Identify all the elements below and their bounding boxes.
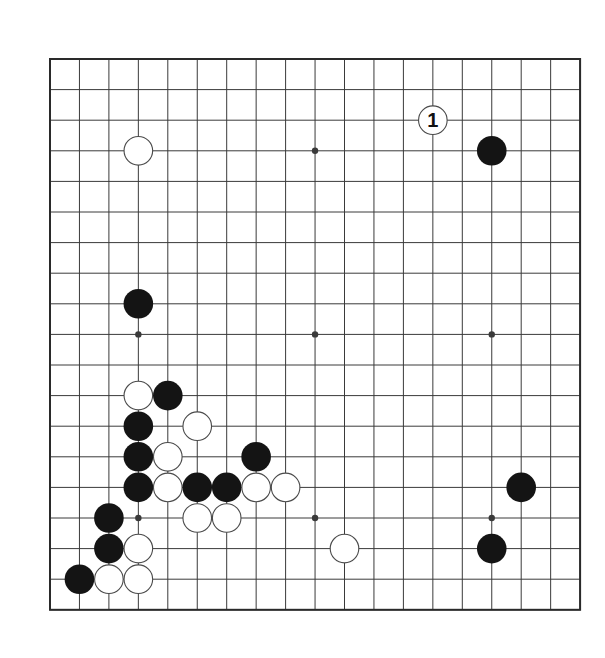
black-stone <box>124 442 154 472</box>
star-point <box>489 515 495 521</box>
white-stone <box>124 534 153 563</box>
black-stone <box>94 503 124 533</box>
white-stone <box>242 473 271 502</box>
black-stone <box>506 473 536 503</box>
black-stone <box>477 534 507 564</box>
white-stone <box>124 565 153 594</box>
black-stone <box>182 473 212 503</box>
black-stone <box>65 564 95 594</box>
star-point <box>312 331 318 337</box>
white-stone <box>183 504 212 533</box>
white-stone <box>124 381 153 410</box>
black-stone <box>477 136 507 166</box>
star-point <box>135 515 141 521</box>
black-stone <box>153 381 183 411</box>
white-stone <box>271 473 300 502</box>
white-stone <box>154 473 183 502</box>
black-stone <box>94 534 124 564</box>
star-point <box>312 515 318 521</box>
star-point <box>489 331 495 337</box>
move-number-label: 1 <box>427 109 438 131</box>
white-stone <box>330 534 359 563</box>
white-stone <box>124 137 153 166</box>
black-stone <box>124 289 154 319</box>
black-stone <box>124 473 154 503</box>
go-board: 1 <box>0 0 605 658</box>
star-point <box>135 331 141 337</box>
white-stone <box>183 412 212 441</box>
white-stone <box>154 443 183 472</box>
white-stone: 1 <box>419 106 448 135</box>
go-board-diagram: 1 <box>0 0 605 658</box>
star-point <box>312 148 318 154</box>
black-stone <box>241 442 271 472</box>
black-stone <box>124 411 154 441</box>
stones-layer: 1 <box>65 106 536 594</box>
white-stone <box>95 565 124 594</box>
white-stone <box>212 504 241 533</box>
black-stone <box>212 473 242 503</box>
